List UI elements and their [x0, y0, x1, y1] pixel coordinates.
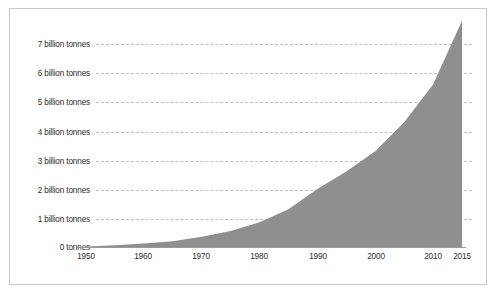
xtick-label-2015: 2015 [453, 252, 471, 261]
area-fill-shape [86, 21, 462, 247]
area-series-plastic-production [10, 9, 488, 286]
chart-figure: 7 billion tonnes 6 billion tonnes 5 bill… [0, 0, 496, 293]
xtick-label-2010: 2010 [424, 252, 442, 261]
plot-area: 7 billion tonnes 6 billion tonnes 5 bill… [10, 9, 488, 286]
xtick-label-2000: 2000 [367, 252, 385, 261]
xtick-label-1990: 1990 [309, 252, 327, 261]
xtick-label-1980: 1980 [250, 252, 268, 261]
xtick-label-1960: 1960 [134, 252, 152, 261]
x-axis-baseline [77, 247, 466, 248]
xtick-label-1950: 1950 [77, 252, 95, 261]
xtick-label-1970: 1970 [192, 252, 210, 261]
chart-frame: 7 billion tonnes 6 billion tonnes 5 bill… [9, 8, 487, 285]
